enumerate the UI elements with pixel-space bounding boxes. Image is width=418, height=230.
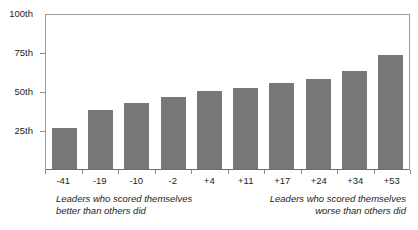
bar (269, 83, 294, 169)
x-tick-mark (301, 170, 302, 174)
right-annotation: Leaders who scored themselves worse than… (270, 193, 406, 217)
x-tick-label: +24 (306, 175, 331, 187)
plot-area (45, 14, 410, 170)
x-tick-label: +53 (379, 175, 404, 187)
x-tick-mark (374, 170, 375, 174)
x-tick-label: +4 (197, 175, 222, 187)
x-tick-label: -41 (51, 175, 76, 187)
x-axis: -41 -19 -10 -2 +4 +11 +17 +24 +34 +53 (45, 170, 410, 192)
x-tick-labels: -41 -19 -10 -2 +4 +11 +17 +24 +34 +53 (45, 175, 410, 187)
y-axis: 100th 75th 50th 25th (0, 0, 40, 180)
x-tick-label: +17 (270, 175, 295, 187)
x-tick-label: +34 (343, 175, 368, 187)
x-tick-mark (82, 170, 83, 174)
bar (233, 88, 258, 169)
x-tick-mark (410, 170, 411, 174)
x-tick-mark (228, 170, 229, 174)
y-tick-label-75th: 75th (15, 48, 34, 58)
x-tick-label: -19 (87, 175, 112, 187)
y-tick-label-50th: 50th (15, 87, 34, 97)
x-tick-label: -10 (124, 175, 149, 187)
bar (306, 79, 331, 169)
x-tick-label: -2 (160, 175, 185, 187)
x-tick-mark (118, 170, 119, 174)
bar (161, 97, 186, 169)
left-annotation: Leaders who scored themselves better tha… (56, 193, 192, 217)
x-tick-label: +11 (233, 175, 258, 187)
bar (197, 91, 222, 169)
bar (52, 128, 77, 169)
bar (88, 110, 113, 169)
x-tick-mark (264, 170, 265, 174)
x-tick-mark (155, 170, 156, 174)
x-tick-mark (45, 170, 46, 174)
bar (124, 103, 149, 169)
bar-chart-figure: 100th 75th 50th 25th -41 -19 -10 -2 +4 (0, 0, 418, 230)
x-tick-mark (337, 170, 338, 174)
y-tick-label-25th: 25th (15, 126, 34, 136)
y-tick-label-100th: 100th (9, 9, 33, 19)
x-tick-marks (45, 170, 410, 174)
bar (378, 55, 403, 169)
bar (342, 71, 367, 169)
x-tick-mark (191, 170, 192, 174)
bar-series (46, 15, 409, 169)
